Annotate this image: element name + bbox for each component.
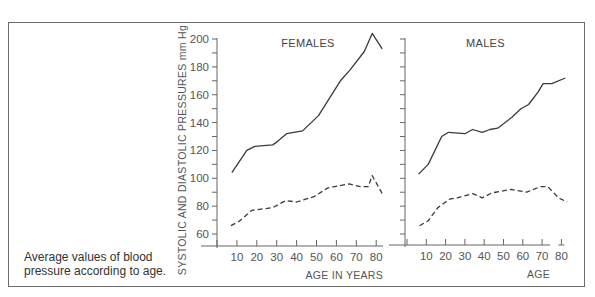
panel-title: FEMALES bbox=[281, 37, 334, 49]
y-axis-title: SYSTOLIC AND DIASTOLIC PRESSURES mm Hg bbox=[176, 25, 188, 275]
x-tick-label: 50 bbox=[310, 251, 323, 263]
panel-title: MALES bbox=[466, 37, 505, 49]
panel-females: 6080100120140160180200SYSTOLIC AND DIAST… bbox=[176, 25, 383, 281]
x-tick-label: 30 bbox=[459, 250, 472, 262]
x-axis-title: AGE IN YEARS bbox=[305, 269, 383, 281]
systolic-line bbox=[232, 33, 382, 172]
y-tick-label: 140 bbox=[190, 117, 209, 129]
x-tick-label: 60 bbox=[330, 251, 343, 263]
panel-males: 1020304050607080AGEMALES bbox=[389, 37, 568, 280]
systolic-line bbox=[419, 78, 566, 174]
x-tick-label: 30 bbox=[270, 251, 283, 263]
x-tick-label: 60 bbox=[516, 250, 529, 262]
x-tick-label: 20 bbox=[250, 251, 263, 263]
caption-line-1: Average values of blood bbox=[24, 250, 194, 264]
figure-caption: Average values of blood pressure accordi… bbox=[24, 250, 194, 278]
y-tick-label: 160 bbox=[190, 89, 209, 101]
y-tick-label: 100 bbox=[190, 172, 209, 184]
x-axis-title: AGE bbox=[527, 268, 550, 280]
x-tick-label: 70 bbox=[536, 250, 549, 262]
y-tick-label: 180 bbox=[190, 61, 209, 73]
x-tick-label: 70 bbox=[350, 251, 363, 263]
x-tick-label: 20 bbox=[439, 250, 452, 262]
caption-line-2: pressure according to age. bbox=[24, 264, 194, 278]
y-tick-label: 80 bbox=[196, 200, 209, 212]
x-tick-label: 40 bbox=[478, 250, 491, 262]
y-tick-label: 200 bbox=[190, 33, 209, 45]
y-tick-label: 120 bbox=[190, 144, 209, 156]
diastolic-line bbox=[420, 187, 568, 226]
x-tick-label: 40 bbox=[290, 251, 303, 263]
y-tick-label: 60 bbox=[196, 228, 209, 240]
x-tick-label: 80 bbox=[555, 250, 568, 262]
x-tick-label: 10 bbox=[231, 251, 244, 263]
x-tick-label: 50 bbox=[497, 250, 510, 262]
diastolic-line bbox=[231, 176, 382, 226]
x-tick-label: 80 bbox=[370, 251, 383, 263]
x-tick-label: 10 bbox=[420, 250, 433, 262]
